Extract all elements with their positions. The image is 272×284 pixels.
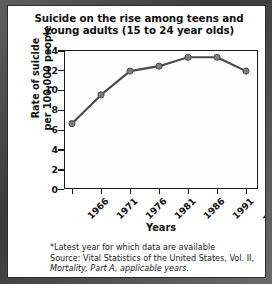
x-tick-mark	[101, 189, 102, 194]
x-tick-label-1996: 1996*	[261, 196, 266, 224]
x-tick-label-1971: 1971	[114, 196, 139, 221]
y-tick-mark	[58, 189, 64, 190]
y-tick-label-12: 12	[34, 66, 58, 75]
y-tick-label-4: 4	[34, 145, 58, 154]
footnote-line-2: Source: Vital Statistics of the United S…	[50, 253, 266, 264]
x-tick-label-1981: 1981	[172, 196, 197, 221]
chart-title-line-1: Suicide on the rise among teens and	[26, 12, 252, 24]
x-tick-label-1966: 1966	[85, 196, 110, 221]
x-axis-title: Years	[64, 222, 258, 233]
x-tick-mark	[130, 189, 131, 194]
x-tick-mark	[159, 189, 160, 194]
x-tick-label-1976: 1976	[143, 196, 168, 221]
x-tick-label-1991: 1991	[230, 196, 255, 221]
figure-outer-border: Suicide on the rise among teens and youn…	[0, 0, 272, 284]
chart-title: Suicide on the rise among teens and youn…	[26, 12, 252, 37]
plot-area	[64, 50, 258, 189]
chart-title-line-2: young adults (15 to 24 year olds)	[26, 24, 252, 36]
x-tick-mark	[72, 189, 73, 194]
x-tick-label-1986: 1986	[201, 196, 226, 221]
figure-canvas: Suicide on the rise among teens and youn…	[7, 5, 266, 278]
y-tick-label-0: 0	[34, 185, 58, 194]
y-tick-label-10: 10	[34, 85, 58, 94]
footnote-line-3: Mortality, Part A, applicable years.	[50, 263, 266, 274]
footnote-line-1: *Latest year for which data are availabl…	[50, 242, 266, 253]
y-tick-label-6: 6	[34, 125, 58, 134]
footnote: *Latest year for which data are availabl…	[50, 242, 266, 274]
x-tick-mark	[217, 189, 218, 194]
y-tick-label-2: 2	[34, 165, 58, 174]
y-tick-label-14: 14	[34, 46, 58, 55]
y-tick-label-8: 8	[34, 105, 58, 114]
x-tick-mark	[246, 189, 247, 194]
x-tick-mark	[188, 189, 189, 194]
